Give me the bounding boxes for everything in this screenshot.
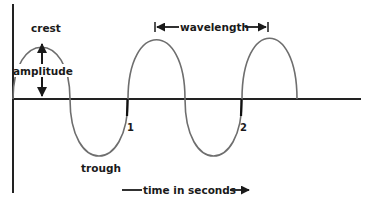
marker-tick-1 [127, 99, 128, 116]
marker-label-2: 2 [240, 122, 247, 133]
time-axis-label: time in seconds [143, 184, 236, 196]
trough-label: trough [81, 162, 121, 174]
marker-tick-2 [241, 99, 242, 116]
wave-curve [13, 38, 297, 156]
crest-label: crest [31, 22, 61, 34]
wave-diagram: 1 2 amplitude crest trough wavelength ti… [0, 0, 371, 215]
marker-label-1: 1 [127, 122, 134, 133]
wavelength-label: wavelength [180, 21, 249, 33]
amplitude-label: amplitude [13, 65, 73, 77]
